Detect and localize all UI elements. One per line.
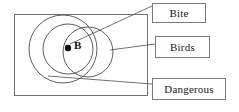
connector-birds-line: [110, 44, 155, 50]
point-b-label: B: [74, 40, 81, 51]
diagram-canvas: B Bite Birds Dangerous: [0, 0, 239, 112]
label-box-bite-text: Bite: [169, 8, 188, 19]
label-box-bite: Bite: [152, 3, 206, 23]
label-box-dangerous: Dangerous: [152, 78, 226, 100]
connector-bite-line: [70, 6, 152, 44]
label-box-dangerous-text: Dangerous: [164, 84, 213, 95]
label-box-birds-text: Birds: [170, 42, 195, 53]
label-box-birds: Birds: [155, 36, 210, 58]
point-b-dot: [65, 45, 71, 51]
universe-rectangle: [15, 15, 148, 96]
